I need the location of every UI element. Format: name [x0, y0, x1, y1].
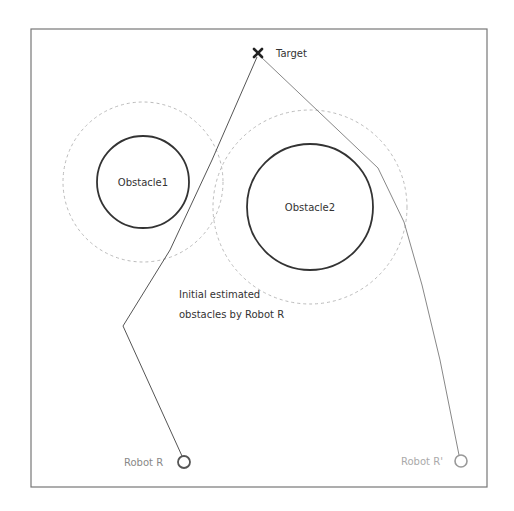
robot-r-label: Robot R: [124, 457, 163, 468]
obstacle2-label: Obstacle2: [285, 202, 335, 213]
robot-r-prime-path: [260, 56, 459, 455]
robot-r-icon: [178, 456, 190, 468]
robot-r-prime-label: Robot R': [401, 456, 443, 467]
target-label: Target: [275, 48, 307, 59]
diagram-canvas: Target Obstacle1 Obstacle2 Initial estim…: [0, 0, 514, 511]
annotation-line2: obstacles by Robot R: [179, 309, 284, 320]
annotation-line1: Initial estimated: [179, 289, 260, 300]
obstacle1-label: Obstacle1: [118, 177, 168, 188]
robot-r-prime-icon: [455, 455, 467, 467]
target-x-icon: [254, 49, 262, 57]
diagram-frame: [31, 29, 487, 487]
